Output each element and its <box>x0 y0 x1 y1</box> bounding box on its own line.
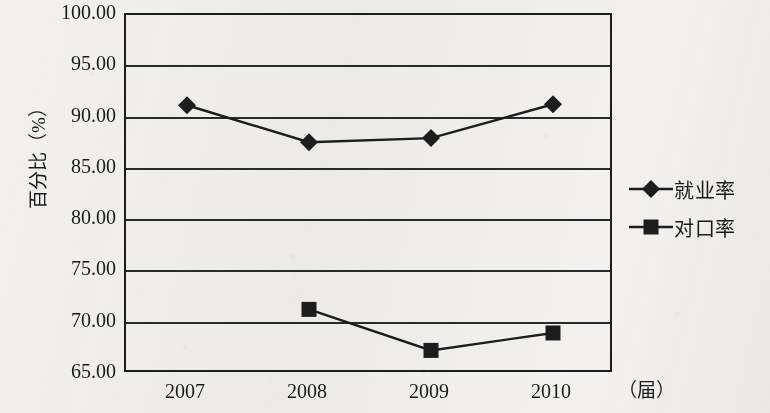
diamond-marker <box>642 180 660 198</box>
square-marker <box>302 302 317 317</box>
y-axis-tick-label: 85.00 <box>6 156 116 176</box>
y-axis-tick-label: 65.00 <box>6 361 116 381</box>
y-axis-tick-label: 95.00 <box>6 53 116 73</box>
plot-area <box>124 13 612 372</box>
legend-label: 对口率 <box>674 213 736 242</box>
y-axis-tick-label: 80.00 <box>6 207 116 227</box>
diamond-marker <box>422 129 440 147</box>
y-axis-tick-label: 90.00 <box>6 105 116 125</box>
data-series-layer <box>126 15 614 374</box>
diamond-marker <box>544 95 562 113</box>
x-axis-tick-labels: 2007200820092010 <box>124 378 612 408</box>
x-axis-tick-label: 2007 <box>140 378 230 404</box>
y-axis-tick-label: 70.00 <box>6 310 116 330</box>
series-line <box>187 104 553 142</box>
square-marker <box>546 325 561 340</box>
x-axis-unit-label: （届） <box>618 378 675 404</box>
y-axis-tick-label: 100.00 <box>6 2 116 22</box>
y-axis-tick-labels: 100.0095.0090.0085.0080.0075.0070.0065.0… <box>0 0 116 413</box>
x-axis-tick-label: 2008 <box>262 378 352 404</box>
legend-label: 就业率 <box>674 175 736 204</box>
legend-item: 对口率 <box>628 208 770 246</box>
x-axis-tick-label: 2010 <box>506 378 596 404</box>
line-chart: 百分比（%） 100.0095.0090.0085.0080.0075.0070… <box>0 0 770 413</box>
square-marker <box>424 343 439 358</box>
diamond-marker <box>300 133 318 151</box>
square-marker <box>628 215 674 239</box>
square-marker <box>644 220 659 235</box>
x-axis-tick-label: 2009 <box>384 378 474 404</box>
diamond-marker <box>178 96 196 114</box>
legend-item: 就业率 <box>628 170 770 208</box>
chart-legend: 就业率对口率 <box>628 170 770 246</box>
diamond-marker <box>628 177 674 201</box>
y-axis-tick-label: 75.00 <box>6 258 116 278</box>
